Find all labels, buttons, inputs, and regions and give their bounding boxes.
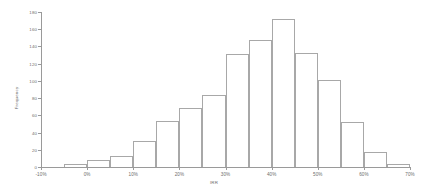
histogram-bar xyxy=(156,121,179,167)
x-axis-tick-label: 30% xyxy=(221,172,231,177)
histogram-bar xyxy=(226,54,249,167)
x-axis-tick xyxy=(41,167,42,170)
x-axis-tick xyxy=(179,167,180,170)
y-axis-tick-label: 120 xyxy=(29,61,37,66)
histogram-bar xyxy=(249,40,272,167)
histogram-bar xyxy=(202,95,225,167)
y-axis-title: Frequency xyxy=(14,87,19,110)
x-axis-tick-label: 60% xyxy=(359,172,369,177)
x-axis-tick xyxy=(87,167,88,170)
y-axis-line xyxy=(41,12,42,168)
x-axis-tick xyxy=(226,167,227,170)
plot-area: 020406080100120140160180 xyxy=(41,12,410,167)
histogram-bar xyxy=(364,152,387,168)
histogram-bar xyxy=(318,80,341,167)
x-axis-tick-label: 70% xyxy=(405,172,415,177)
y-axis-tick-label: 60 xyxy=(32,113,37,118)
histogram-bar xyxy=(179,108,202,167)
x-axis-tick xyxy=(272,167,273,170)
x-axis-tick xyxy=(133,167,134,170)
histogram-bar xyxy=(341,122,364,167)
y-axis-tick-label: 160 xyxy=(29,27,37,32)
histogram-bar xyxy=(110,156,133,167)
histogram-chart: 020406080100120140160180 -10%0%10%20%30%… xyxy=(0,0,428,196)
x-axis-tick-label: 50% xyxy=(313,172,323,177)
x-axis-tick-label: 40% xyxy=(267,172,277,177)
x-axis-tick xyxy=(318,167,319,170)
x-axis-tick-label: -10% xyxy=(35,172,46,177)
x-axis-tick-label: 20% xyxy=(175,172,185,177)
y-axis-tick-label: 100 xyxy=(29,78,37,83)
x-axis-tick xyxy=(364,167,365,170)
x-axis-title: IRR xyxy=(0,180,428,185)
y-axis-tick-label: 0 xyxy=(34,165,37,170)
histogram-bar xyxy=(295,53,318,167)
y-axis-tick-label: 180 xyxy=(29,10,37,15)
x-axis-tick-label: 10% xyxy=(129,172,139,177)
histogram-bar xyxy=(133,141,156,167)
histogram-bar xyxy=(272,19,295,167)
y-axis-tick-label: 40 xyxy=(32,130,37,135)
y-axis-tick-label: 140 xyxy=(29,44,37,49)
x-axis-tick xyxy=(410,167,411,170)
x-axis-tick-label: 0% xyxy=(84,172,91,177)
y-axis-tick-label: 80 xyxy=(32,96,37,101)
y-axis-tick-label: 20 xyxy=(32,147,37,152)
histogram-bar xyxy=(87,160,110,167)
